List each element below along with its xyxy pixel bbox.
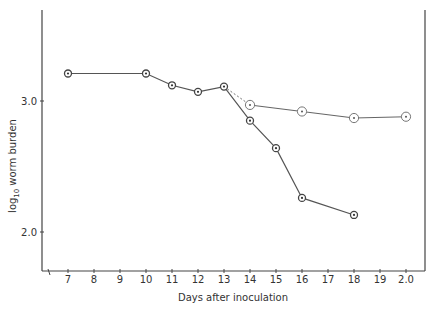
y-axis-ticks: 3.02.0 <box>21 96 44 238</box>
x-tick-label: 16 <box>296 274 309 285</box>
x-tick-label: 11 <box>166 274 179 285</box>
x-tick-label: 2.0 <box>398 274 414 285</box>
series-line-declining <box>68 73 354 214</box>
y-tick-label: 3.0 <box>21 96 37 107</box>
x-tick-label: 13 <box>218 274 231 285</box>
x-tick-label: 18 <box>348 274 361 285</box>
x-tick-label: 14 <box>244 274 257 285</box>
x-tick-label: 9 <box>117 274 123 285</box>
x-axis-label: Days after inoculation <box>178 292 288 303</box>
y-axis-label: log10worm burden <box>7 119 21 213</box>
x-tick-label: 15 <box>270 274 283 285</box>
y-tick-label: 2.0 <box>21 227 37 238</box>
series-line-stable <box>250 105 406 118</box>
x-tick-label: 8 <box>91 274 97 285</box>
x-tick-label: 17 <box>322 274 335 285</box>
line-chart: 3.02.0 789101112131415161718192.0 Days a… <box>0 0 433 314</box>
plot-frame <box>42 10 425 271</box>
x-tick-label: 7 <box>65 274 71 285</box>
x-tick-label: 19 <box>374 274 387 285</box>
x-tick-label: 10 <box>140 274 153 285</box>
data-series <box>65 70 411 218</box>
x-tick-label: 12 <box>192 274 205 285</box>
